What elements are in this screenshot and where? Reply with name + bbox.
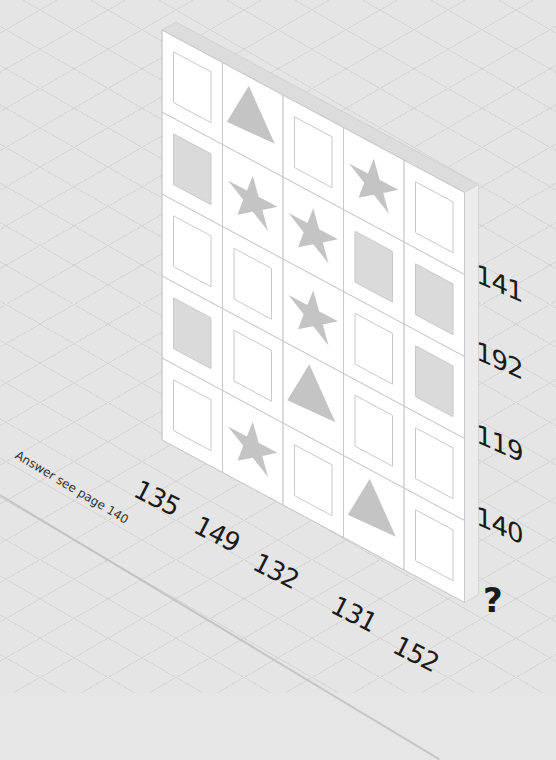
row-total-5-unknown: ? xyxy=(483,580,503,620)
board-right-edge xyxy=(465,185,479,603)
